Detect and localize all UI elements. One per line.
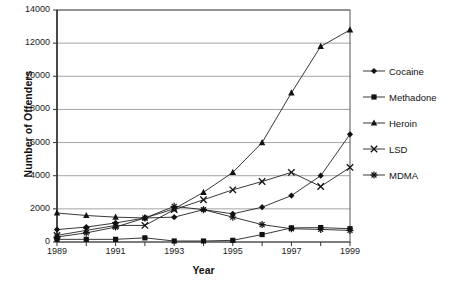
legend-label: Heroin <box>389 118 417 129</box>
legend-item-mdma[interactable]: MDMA <box>362 162 448 188</box>
triangle-marker-icon <box>362 116 386 130</box>
cross-marker-icon <box>362 142 386 156</box>
diamond-marker-icon <box>362 64 386 78</box>
legend-label: Cocaine <box>389 66 424 77</box>
legend-label: Methadone <box>389 92 437 103</box>
asterisk-marker-icon <box>362 168 386 182</box>
chart-figure: Number of Offenders Year 020004000600080… <box>0 0 450 291</box>
series-heroin <box>54 26 353 220</box>
square-marker-icon <box>362 90 386 104</box>
legend-label: LSD <box>389 144 407 155</box>
legend-item-heroin[interactable]: Heroin <box>362 110 448 136</box>
legend-item-methadone[interactable]: Methadone <box>362 84 448 110</box>
chart-legend: CocaineMethadoneHeroinLSDMDMA <box>362 58 448 188</box>
legend-label: MDMA <box>389 170 418 181</box>
legend-item-lsd[interactable]: LSD <box>362 136 448 162</box>
series-cocaine <box>54 131 353 232</box>
legend-item-cocaine[interactable]: Cocaine <box>362 58 448 84</box>
